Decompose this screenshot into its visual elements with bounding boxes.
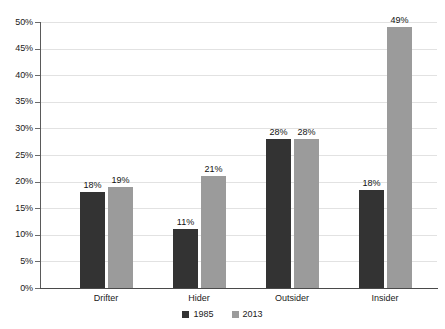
bar-value-insider-1985: 18% (362, 179, 380, 188)
bar-group-outsider: 28% 28% (266, 22, 319, 288)
y-tick-mark-5 (35, 261, 40, 262)
y-tick-mark-50 (35, 22, 40, 23)
y-axis-line (40, 22, 41, 289)
y-tick-mark-45 (35, 49, 40, 50)
y-tick-mark-25 (35, 155, 40, 156)
bar-value-hider-1985: 11% (177, 218, 194, 227)
bar-drifter-2013[interactable]: 19% (108, 187, 133, 288)
y-tick-mark-10 (35, 235, 40, 236)
y-tick-label-15: 15% (0, 204, 33, 213)
chart-legend: 1985 2013 (0, 310, 445, 319)
y-tick-mark-0 (35, 288, 40, 289)
y-tick-mark-15 (35, 208, 40, 209)
x-tick-label-insider: Insider (340, 293, 430, 304)
legend-label-1985: 1985 (193, 310, 213, 319)
y-tick-label-30: 30% (0, 124, 33, 133)
x-tick-label-hider: Hider (154, 293, 244, 304)
bar-value-outsider-1985: 28% (269, 128, 287, 137)
legend-swatch-2013-icon (232, 311, 239, 318)
y-tick-label-0: 0% (0, 284, 33, 293)
bar-outsider-1985[interactable]: 28% (266, 139, 291, 288)
bar-value-drifter-1985: 18% (83, 181, 101, 190)
bar-insider-2013[interactable]: 49% (387, 27, 412, 288)
bar-hider-2013[interactable]: 21% (201, 176, 226, 288)
y-tick-label-35: 35% (0, 97, 33, 106)
y-tick-mark-40 (35, 75, 40, 76)
bar-group-hider: 11% 21% (173, 22, 226, 288)
y-tick-mark-20 (35, 182, 40, 183)
bar-value-outsider-2013: 28% (297, 128, 315, 137)
y-axis-labels: 50% 45% 40% 35% 30% 25% 20% 15% 10% 5% 0… (0, 0, 33, 329)
y-tick-mark-35 (35, 102, 40, 103)
y-tick-label-50: 50% (0, 18, 33, 27)
bar-group-insider: 18% 49% (359, 22, 412, 288)
y-tick-label-10: 10% (0, 230, 33, 239)
legend-item-1985[interactable]: 1985 (182, 310, 213, 319)
bar-group-drifter: 18% 19% (80, 22, 133, 288)
x-tick-label-drifter: Drifter (61, 293, 151, 304)
bar-insider-1985[interactable]: 18% (359, 190, 384, 288)
y-tick-label-45: 45% (0, 44, 33, 53)
y-tick-label-20: 20% (0, 177, 33, 186)
plot-area: 18% 19% 11% 21% 28% 28% (40, 22, 437, 288)
y-tick-mark-30 (35, 128, 40, 129)
y-tick-label-40: 40% (0, 71, 33, 80)
bar-chart: 18% 19% 11% 21% 28% 28% (0, 0, 445, 329)
x-axis-line (40, 288, 438, 289)
legend-item-2013[interactable]: 2013 (232, 310, 263, 319)
y-tick-label-25: 25% (0, 151, 33, 160)
y-tick-label-5: 5% (0, 257, 33, 266)
bar-drifter-1985[interactable]: 18% (80, 192, 105, 288)
bar-outsider-2013[interactable]: 28% (294, 139, 319, 288)
bar-value-hider-2013: 21% (204, 165, 222, 174)
legend-swatch-1985-icon (182, 311, 189, 318)
bar-hider-1985[interactable]: 11% (173, 229, 198, 288)
bar-value-insider-2013: 49% (390, 16, 408, 25)
legend-label-2013: 2013 (243, 310, 263, 319)
x-tick-label-outsider: Outsider (247, 293, 337, 304)
bar-value-drifter-2013: 19% (111, 176, 129, 185)
